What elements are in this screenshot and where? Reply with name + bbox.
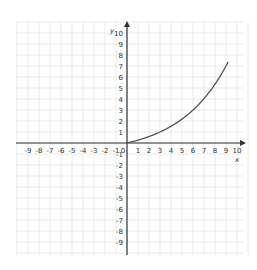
x-tick-label: 5 (180, 147, 184, 155)
x-tick-label: -8 (36, 147, 43, 155)
y-tick-label: -9 (116, 239, 123, 247)
y-tick-label: 5 (119, 85, 123, 93)
y-tick-label: 4 (119, 96, 124, 104)
x-tick-label: -7 (47, 147, 54, 155)
y-tick-label: -6 (116, 206, 124, 214)
x-tick-label: 7 (202, 147, 206, 155)
x-axis-label: x (234, 156, 240, 164)
x-tick-label: 8 (213, 147, 217, 155)
y-tick-label: 10 (114, 30, 123, 38)
grid-lines (16, 22, 248, 255)
y-tick-label: 1 (119, 129, 123, 137)
y-tick-label: -2 (116, 162, 123, 170)
x-tick-label: -3 (91, 147, 98, 155)
y-axis-label: y (109, 27, 115, 35)
y-tick-label: -1 (116, 151, 123, 159)
x-tick-label: 9 (224, 147, 228, 155)
x-tick-label: -6 (58, 147, 66, 155)
y-tick-label: 6 (119, 74, 124, 82)
y-tick-label: -3 (116, 173, 123, 181)
x-tick-label: 10 (233, 147, 242, 155)
tick-labels: -9-8-7-6-5-4-3-2-10123456789101098765432… (25, 30, 242, 247)
y-tick-label: 2 (119, 118, 123, 126)
y-tick-label: 3 (119, 107, 123, 115)
x-tick-label: 2 (147, 147, 151, 155)
x-tick-label: -2 (102, 147, 109, 155)
y-tick-label: 8 (119, 52, 123, 60)
x-tick-label: -5 (69, 147, 76, 155)
y-tick-label: -7 (116, 217, 123, 225)
x-tick-label: 3 (158, 147, 162, 155)
x-tick-label: -9 (25, 147, 32, 155)
y-tick-label: 9 (119, 41, 123, 49)
x-tick-label: 4 (169, 147, 174, 155)
x-axis-arrow-icon (240, 140, 246, 146)
coordinate-plane: -9-8-7-6-5-4-3-2-10123456789101098765432… (0, 0, 257, 270)
y-tick-label: -4 (116, 184, 124, 192)
x-tick-label: 1 (136, 147, 140, 155)
y-tick-label: -8 (116, 228, 123, 236)
x-tick-label: 6 (191, 147, 196, 155)
x-tick-label: -4 (80, 147, 88, 155)
y-tick-label: -5 (116, 195, 123, 203)
y-tick-label: 7 (119, 63, 123, 71)
data-curve (127, 62, 228, 143)
